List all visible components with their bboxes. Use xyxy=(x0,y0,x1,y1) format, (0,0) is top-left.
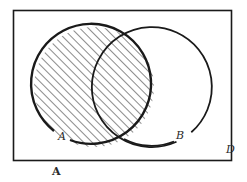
set-b-circle-lower-arc xyxy=(124,139,174,146)
set-b-label: B xyxy=(175,129,184,142)
figure-caption: A xyxy=(52,165,61,178)
universe-label: D xyxy=(225,143,235,156)
venn-diagram: A B D xyxy=(0,0,247,182)
set-a-label: A xyxy=(57,130,66,143)
